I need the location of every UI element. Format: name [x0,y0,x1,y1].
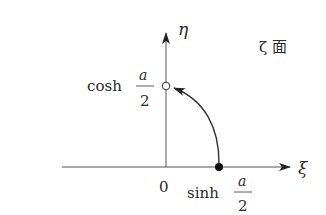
sinh-denominator: 2 [238,197,248,215]
cosh-numerator: a [139,67,147,83]
sinh-func: sinh [187,184,219,202]
mapping-curve [174,88,219,163]
cosh-func: cosh [87,77,122,95]
plane-label: ζ 面 [259,38,287,56]
open-point-cosh [162,82,170,90]
cosh-label: cosh a 2 [87,67,154,110]
sinh-numerator: a [238,173,246,189]
zeta-plane-diagram: η ξ 0 ζ 面 cosh a 2 sinh a 2 [0,0,326,215]
eta-axis-label: η [178,19,189,39]
cosh-denominator: 2 [140,92,150,110]
sinh-label: sinh a 2 [187,173,252,215]
filled-point-sinh [215,163,223,171]
xi-axis-label: ξ [298,158,309,178]
diagram-svg: η ξ 0 ζ 面 cosh a 2 sinh a 2 [0,0,326,215]
origin-label: 0 [159,178,169,196]
